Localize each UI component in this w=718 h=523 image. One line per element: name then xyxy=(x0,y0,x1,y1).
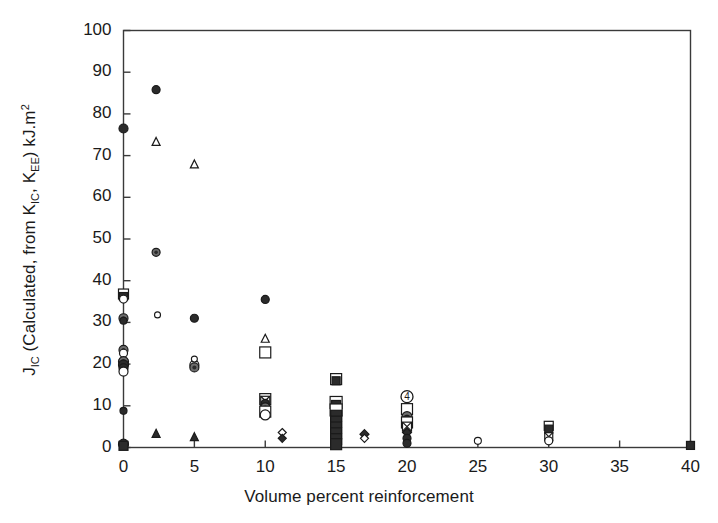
y-label-k2-subscript: EE xyxy=(29,157,41,172)
x-tick-label: 0 xyxy=(94,457,154,477)
y-label-mid2: , K xyxy=(20,172,39,193)
data-point-circled-four: 4 xyxy=(401,391,413,403)
data-point-filled-circle xyxy=(120,407,127,414)
data-point-half-circle xyxy=(190,363,199,372)
y-tick-label: 90 xyxy=(52,61,112,81)
data-point-open-triangle xyxy=(190,160,198,168)
y-tick-label: 80 xyxy=(52,103,112,123)
data-points-group: 4 xyxy=(119,86,695,451)
data-point-open-circle xyxy=(119,367,128,376)
data-point-filled-square xyxy=(119,441,128,450)
data-point-filled-square xyxy=(331,439,342,450)
data-point-filled-triangle xyxy=(190,433,198,441)
y-label-j: J xyxy=(20,367,39,376)
x-tick-label: 40 xyxy=(661,457,718,477)
y-tick-label: 30 xyxy=(52,311,112,331)
data-point-open-square xyxy=(260,347,271,358)
data-point-small-open-circle xyxy=(191,356,197,362)
data-point-small-open-circle xyxy=(155,312,161,318)
y-tick-label: 10 xyxy=(52,395,112,415)
scatter-plot-figure: 4 0510152025303540 010203040506070809010… xyxy=(0,0,718,523)
data-point-filled-circle xyxy=(403,439,411,447)
y-axis-label-text: JIC (Calculated, from KIC, KEE) kJ.m2 xyxy=(20,104,39,376)
data-point-filled-circle xyxy=(119,124,128,133)
data-point-filled-circle xyxy=(152,86,160,94)
svg-text:4: 4 xyxy=(404,391,410,402)
data-point-open-circle xyxy=(260,410,270,420)
axes-group xyxy=(124,31,691,448)
x-tick-label: 15 xyxy=(306,457,366,477)
x-tick-label: 20 xyxy=(377,457,437,477)
data-point-filled-square xyxy=(687,441,695,449)
data-point-half-circle xyxy=(152,248,160,256)
x-tick-label: 5 xyxy=(164,457,224,477)
y-axis-label: JIC (Calculated, from KIC, KEE) kJ.m2 xyxy=(19,5,45,475)
data-point-open-circle xyxy=(545,437,553,445)
y-label-j-subscript: IC xyxy=(29,356,41,367)
y-label-k1-subscript: IC xyxy=(29,193,41,204)
data-point-filled-square xyxy=(332,377,340,385)
x-axis-label: Volume percent reinforcement xyxy=(0,487,718,507)
x-tick-label: 25 xyxy=(448,457,508,477)
data-point-filled-circle xyxy=(261,295,269,303)
data-point-filled-triangle xyxy=(152,429,160,437)
data-point-open-triangle xyxy=(152,137,160,145)
y-tick-label: 70 xyxy=(52,145,112,165)
y-label-tail: ) kJ.m xyxy=(20,110,39,157)
data-point-small-open-circle xyxy=(474,437,481,444)
y-tick-label: 20 xyxy=(52,353,112,373)
y-tick-label: 60 xyxy=(52,186,112,206)
tick-marks-group xyxy=(124,31,691,448)
data-point-filled-circle xyxy=(120,317,127,324)
y-tick-label: 40 xyxy=(52,270,112,290)
y-tick-label: 50 xyxy=(52,228,112,248)
data-point-open-triangle xyxy=(261,334,269,342)
data-point-filled-square xyxy=(545,425,553,433)
data-point-open-circle xyxy=(120,295,128,303)
x-tick-label: 30 xyxy=(519,457,579,477)
y-tick-label: 100 xyxy=(52,20,112,40)
x-tick-label: 10 xyxy=(235,457,295,477)
data-point-filled-circle xyxy=(190,314,198,322)
y-tick-label: 0 xyxy=(52,437,112,457)
y-label-mid: (Calculated, from K xyxy=(20,204,39,356)
x-tick-label: 35 xyxy=(590,457,650,477)
data-point-filled-diamond xyxy=(278,434,286,442)
plot-frame xyxy=(124,31,691,448)
y-label-tail-superscript: 2 xyxy=(19,104,31,110)
